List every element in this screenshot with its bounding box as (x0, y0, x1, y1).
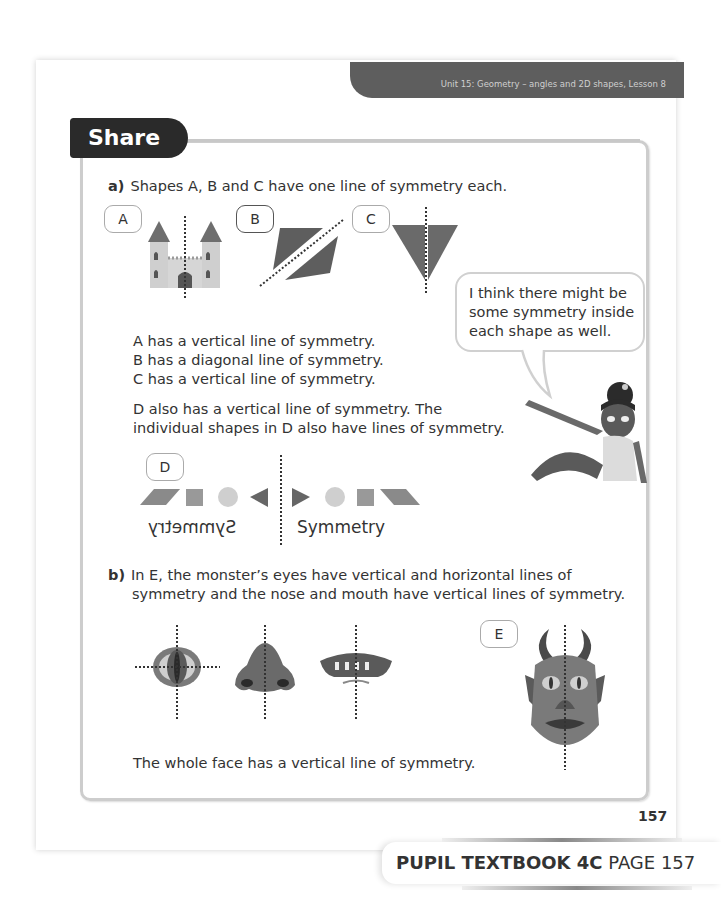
statement-b: B has a diagonal line of symmetry. (133, 351, 384, 370)
speech-bubble: I think there might be some symmetry ins… (455, 272, 645, 352)
part-a-label: a) (108, 178, 124, 194)
bubble-line: I think there might be (469, 284, 643, 303)
section-title: Share (70, 118, 188, 158)
footer-top-bar (442, 838, 682, 842)
kite-shape-b (258, 218, 358, 293)
eye-shape (135, 625, 220, 720)
unit-title: Unit 15: Geometry – angles and 2D shapes… (441, 79, 666, 89)
part-b-line1-text: In E, the monster’s eyes have vertical a… (131, 567, 572, 583)
part-a-intro: a)Shapes A, B and C have one line of sym… (108, 177, 507, 196)
shape-tag-c: C (352, 205, 390, 233)
statement-c: C has a vertical line of symmetry. (133, 370, 376, 389)
triangle-shape-c (392, 205, 462, 295)
conclusion-text: The whole face has a vertical line of sy… (133, 754, 475, 773)
bubble-line: each shape as well. (469, 322, 643, 341)
unit-banner: Unit 15: Geometry – angles and 2D shapes… (350, 62, 684, 98)
page-number: 157 (638, 808, 667, 824)
shape-tag-a: A (104, 205, 142, 233)
girl-character-illustration (505, 375, 640, 490)
part-b-line1: b)In E, the monster’s eyes have vertical… (108, 566, 572, 585)
footer-label: PUPIL TEXTBOOK 4C PAGE 157 (396, 852, 695, 873)
mirrored-word: Symmetry (148, 518, 236, 537)
statement-a: A has a vertical line of symmetry. (133, 332, 375, 351)
footer-tab: PUPIL TEXTBOOK 4C PAGE 157 (382, 842, 721, 884)
castle-shape-a (140, 218, 230, 298)
d-text-line2: individual shapes in D also have lines o… (133, 419, 505, 438)
part-a-intro-text: Shapes A, B and C have one line of symme… (130, 178, 507, 194)
monster-features (135, 625, 395, 720)
monster-face-e (515, 625, 615, 770)
d-text-line1: D also has a vertical line of symmetry. … (133, 400, 442, 419)
symmetry-word: Symmetry (297, 518, 385, 537)
page-label: PAGE 157 (608, 852, 695, 873)
mouth-shape (320, 625, 392, 720)
shape-tag-e: E (480, 620, 518, 648)
shape-tag-d: D (146, 453, 184, 481)
nose-shape (235, 625, 295, 720)
book-label: PUPIL TEXTBOOK 4C (396, 852, 602, 873)
footer-bottom-bar (462, 886, 692, 890)
share-divider (185, 139, 640, 142)
part-b-label: b) (108, 567, 125, 583)
part-b-line2: symmetry and the nose and mouth have ver… (132, 585, 625, 604)
bubble-line: some symmetry inside (469, 303, 643, 322)
